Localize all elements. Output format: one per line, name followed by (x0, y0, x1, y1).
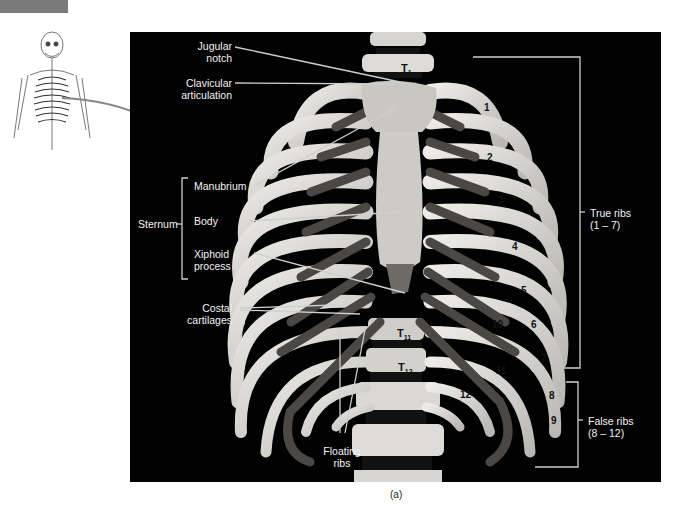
manubrium (362, 81, 437, 132)
label-clavicular-line1: Clavicular (160, 77, 232, 89)
rib-number-7: 7 (541, 354, 547, 364)
rib-number-12: 12 (460, 390, 471, 400)
rib-number-5: 5 (521, 286, 527, 296)
vertebra-t1: T1 (401, 63, 412, 78)
rib-number-11: 11 (496, 366, 507, 376)
vertebra-t12: T12 (398, 362, 413, 377)
rib-number-6: 6 (531, 320, 537, 330)
rib-number-3: 3 (498, 196, 504, 206)
rib-number-9: 9 (551, 416, 557, 426)
label-costal-line2: cartilages (176, 314, 232, 326)
corner-tab (0, 0, 68, 13)
label-costal-cartilages: Costal cartilages (176, 302, 232, 326)
label-xiphoid-process: Xiphoid process (194, 248, 231, 272)
label-false-ribs: False ribs (8 – 12) (588, 415, 634, 439)
rib-number-2: 2 (487, 153, 493, 163)
rib-number-1: 1 (484, 103, 490, 113)
label-floating-ribs: Floating ribs (320, 445, 364, 469)
label-jugular-notch: Jugular notch (188, 40, 232, 64)
label-sternum: Sternum (138, 218, 178, 230)
figure-caption: (a) (390, 489, 402, 500)
label-floating-line1: Floating (320, 445, 364, 457)
label-body: Body (194, 215, 218, 227)
label-jugular-line2: notch (188, 52, 232, 64)
label-false-ribs-line1: False ribs (588, 415, 634, 427)
label-xiphoid-line1: Xiphoid (194, 248, 231, 260)
label-manubrium: Manubrium (194, 180, 247, 192)
rib-number-4: 4 (512, 242, 518, 252)
label-clavicular-articulation: Clavicular articulation (160, 77, 232, 101)
label-true-ribs-line1: True ribs (590, 207, 631, 219)
vertebra-t11: T11 (397, 328, 411, 343)
skull-icon (41, 32, 63, 58)
label-floating-line2: ribs (320, 457, 364, 469)
xiphoid-process (386, 264, 414, 294)
label-jugular-line1: Jugular (188, 40, 232, 52)
label-true-ribs-line2: (1 – 7) (590, 219, 631, 231)
label-clavicular-line2: articulation (160, 89, 232, 101)
label-xiphoid-line2: process (194, 260, 231, 272)
label-costal-line1: Costal (176, 302, 232, 314)
rib-number-10: 10 (492, 320, 503, 330)
label-true-ribs: True ribs (1 – 7) (590, 207, 631, 231)
sternum-body (376, 132, 423, 270)
label-false-ribs-line2: (8 – 12) (588, 427, 634, 439)
rib-number-8: 8 (549, 391, 555, 401)
